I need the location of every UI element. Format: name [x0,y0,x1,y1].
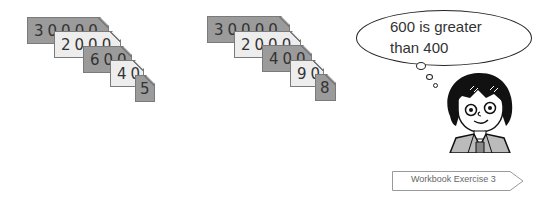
thought-bubble-text: 600 is greater than 400 [390,16,482,58]
thought-dot-small [433,83,438,88]
thought-line-2: than 400 [390,37,482,58]
thought-dot-large [416,62,426,70]
thought-dot-medium [426,74,433,80]
girl-character-icon [440,68,520,157]
card-5: 5 [135,75,155,102]
card-8: 8 [315,74,336,101]
thought-line-1: 600 is greater [390,16,482,37]
workbook-exercise-label: Workbook Exercise 3 [411,174,496,184]
workbook-exercise-link[interactable]: Workbook Exercise 3 [392,171,522,191]
